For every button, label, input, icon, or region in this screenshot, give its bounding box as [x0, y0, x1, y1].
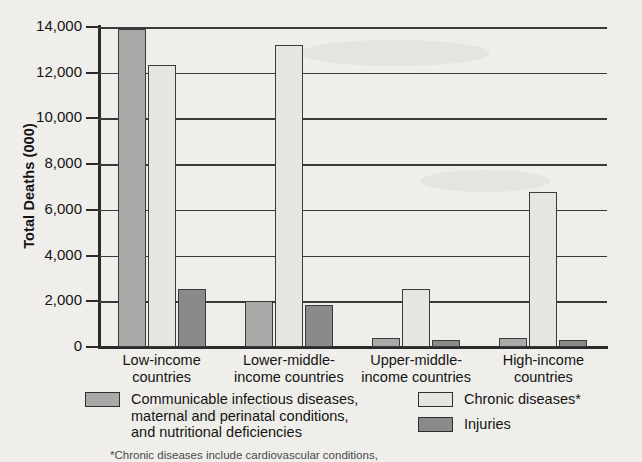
y-axis-tick-label: 10,000 — [0, 108, 82, 125]
legend-item-chronic[interactable]: Chronic diseases* — [418, 391, 628, 408]
bar[interactable] — [559, 340, 587, 347]
legend-label-chronic: Chronic diseases* — [464, 391, 581, 408]
bar[interactable] — [499, 338, 527, 347]
legend-label-communicable: Communicable infectious diseases, matern… — [131, 391, 358, 441]
bar[interactable] — [245, 301, 273, 347]
legend-label-injuries: Injuries — [464, 416, 511, 433]
legend-swatch-communicable-icon — [85, 392, 120, 407]
chart-legend: Communicable infectious diseases, matern… — [0, 389, 642, 449]
x-axis-category-label: Lower-middle-income countries — [215, 352, 362, 385]
bar[interactable] — [372, 338, 400, 347]
x-axis-category-label: Upper-middle-income countries — [343, 352, 490, 385]
bar[interactable] — [275, 45, 303, 347]
bar-group — [480, 27, 607, 347]
y-axis-tick-label: 8,000 — [0, 154, 82, 171]
y-axis-tick-label: 0 — [0, 337, 82, 354]
legend-item-communicable[interactable]: Communicable infectious diseases, matern… — [85, 391, 415, 441]
x-axis-category-label: Low-incomecountries — [88, 352, 235, 385]
bar[interactable] — [402, 289, 430, 347]
bar[interactable] — [118, 29, 146, 347]
y-axis-tick-label: 14,000 — [0, 17, 82, 34]
y-axis-tick-label: 6,000 — [0, 200, 82, 217]
bar[interactable] — [178, 289, 206, 348]
plot-area — [98, 27, 607, 347]
bar-group — [225, 27, 352, 347]
bar-group — [98, 27, 225, 347]
y-axis-tick-label: 4,000 — [0, 246, 82, 263]
bar-group — [353, 27, 480, 347]
bar[interactable] — [305, 305, 333, 347]
chart-footnote: *Chronic diseases include cardiovascular… — [110, 449, 570, 462]
legend-swatch-injuries-icon — [418, 417, 453, 432]
bar[interactable] — [432, 340, 460, 347]
y-axis-title: Total Deaths (000) — [21, 61, 37, 311]
bar[interactable] — [529, 192, 557, 347]
y-axis-tick-label: 2,000 — [0, 291, 82, 308]
x-axis-category-label: High-incomecountries — [470, 352, 617, 385]
y-axis-tick-label: 12,000 — [0, 63, 82, 80]
bar[interactable] — [148, 65, 176, 347]
legend-item-injuries[interactable]: Injuries — [418, 416, 628, 433]
legend-swatch-chronic-icon — [418, 392, 453, 407]
